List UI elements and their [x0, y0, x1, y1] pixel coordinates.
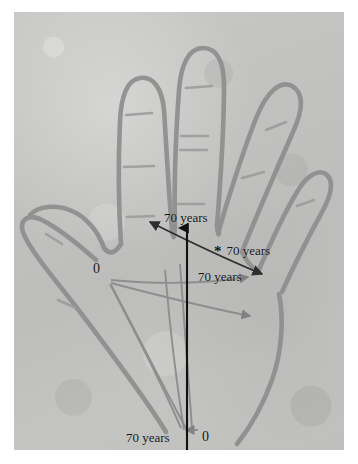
gray-measurement-arrows	[110, 264, 250, 432]
photograph-plate: 70 years *70 years 70 years 70 years 0 0	[14, 12, 344, 450]
label-starred-axis-text: 70 years	[227, 243, 271, 258]
label-diagonal-axis: 70 years	[198, 270, 242, 283]
ring-finger-outline	[219, 84, 301, 252]
hand-outline-diagram	[14, 12, 344, 450]
crease-index-2	[124, 166, 154, 167]
label-bottom-origin: 0	[202, 430, 209, 444]
thumb-outline-lower	[30, 207, 104, 248]
label-starred-axis: *70 years	[214, 244, 270, 259]
label-left-origin: 0	[93, 262, 100, 276]
palm-right-border	[237, 294, 282, 444]
gray-arrow-to-right-lower	[111, 283, 250, 316]
crease-ring-1	[266, 122, 286, 130]
middle-finger-outline	[175, 48, 224, 227]
crease-index-3	[127, 216, 154, 217]
gray-ray-down-right-1	[110, 284, 181, 428]
crease-little-1	[297, 200, 314, 206]
thumb-outline	[22, 217, 166, 432]
web-middle-ring	[217, 226, 219, 234]
crease-thumb-1	[46, 234, 62, 244]
thumb-web-outline	[104, 244, 121, 252]
crease-ring-2	[242, 172, 264, 178]
crease-index-1	[126, 113, 152, 115]
crease-middle-1	[186, 86, 212, 88]
label-top-axis: 70 years	[164, 211, 208, 224]
figure-page: 70 years *70 years 70 years 70 years 0 0	[0, 0, 358, 464]
label-bottom-axis: 70 years	[126, 431, 170, 444]
web-index-middle	[172, 227, 175, 237]
asterisk-marker: *	[214, 243, 222, 259]
